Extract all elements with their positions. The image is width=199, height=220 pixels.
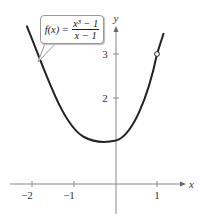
callout-fraction: x³ − 1 x − 1: [72, 18, 99, 41]
x-tick-label: 1: [154, 189, 160, 201]
callout-denominator: x − 1: [75, 30, 97, 41]
y-axis-arrow-icon: [114, 26, 119, 32]
y-tick-label: 3: [102, 48, 108, 60]
x-axis-label: x: [188, 178, 194, 190]
x-axis: −2 −1 1 x: [10, 178, 194, 201]
y-tick-label: 2: [102, 92, 108, 104]
callout-numerator: x³ − 1: [72, 18, 99, 30]
callout-lhs: f(x) =: [45, 24, 69, 35]
open-circle-hole: [155, 52, 160, 57]
y-axis-label: y: [113, 12, 119, 24]
callout-pointer: [38, 41, 58, 62]
x-axis-arrow-icon: [180, 182, 186, 187]
function-callout: f(x) = x³ − 1 x − 1: [40, 15, 104, 44]
x-tick-label: −1: [63, 189, 75, 201]
x-tick-label: −2: [21, 189, 33, 201]
